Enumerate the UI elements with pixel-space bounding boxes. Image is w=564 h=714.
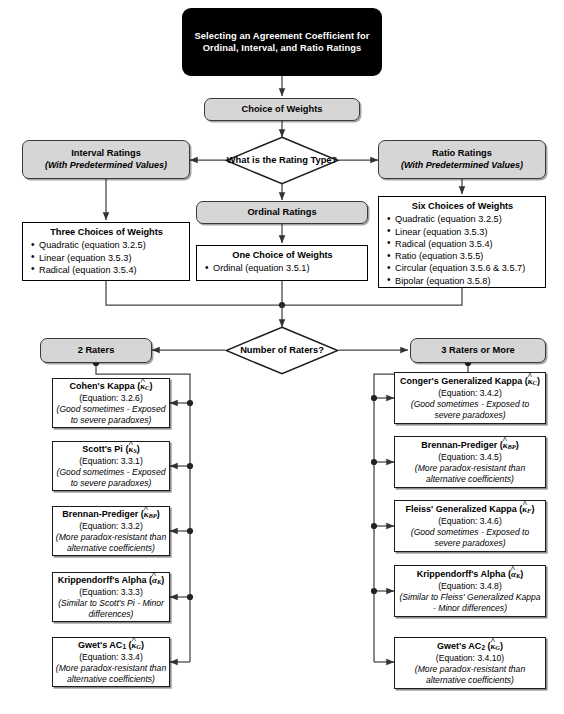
ratio-ratings-label: Ratio Ratings [432,148,492,160]
stage-three-or-more-raters[interactable]: 3 Raters or More [410,338,546,363]
list-item: Ratio (equation 3.5.5) [395,250,548,262]
list-item: Ordinal (equation 3.5.1) [213,262,370,274]
coefficient-symbol: (κC) [137,381,152,391]
coefficient-name-text: Fleiss' Generalized Kappa [406,504,517,514]
coefficient-name: Gwet's AC1 (κG) [78,640,144,653]
coefficient-name: Brennan-Prediger (κBP) [421,440,519,453]
coefficient-box-scotts-pi: Scott's Pi (κS) (Equation: 3.3.1) (Good … [52,441,170,491]
diagram-title-text: Selecting an Agreement Coefficient for O… [188,30,376,55]
coefficient-symbol: (αK) [149,575,164,585]
coefficient-note: (More paradox-resistant than alternative… [397,463,543,484]
coefficient-symbol: (κG) [488,641,503,651]
coefficient-box-congers-generalized-kappa: Conger's Generalized Kappa (κC) (Equatio… [394,372,546,424]
coefficient-box-brennan-prediger-3raters: Brennan-Prediger (κBP) (Equation: 3.4.5)… [394,436,546,488]
list-item: Radical (equation 3.5.4) [39,264,192,276]
flowchart-canvas: Selecting an Agreement Coefficient for O… [0,0,564,714]
coefficient-equation: (Equation: 3.3.3) [79,587,143,598]
coefficient-equation: (Equation: 3.4.6) [438,516,502,527]
coefficient-name: Scott's Pi (κS) [82,444,140,457]
coefficient-name-text: Cohen's Kappa [70,381,135,391]
six-choices-list: Quadratic (equation 3.2.5) Linear (equat… [386,213,548,287]
coefficient-equation: (Equation: 3.4.2) [438,388,502,399]
stage-two-raters[interactable]: 2 Raters [40,338,152,363]
decision-rating-type-label: What is the Rating Type? [225,136,339,185]
three-or-more-raters-label: 3 Raters or More [441,345,514,357]
coefficient-symbol: (κBP) [141,509,160,519]
choice-of-weights-label: Choice of Weights [242,104,323,116]
box-one-choice-of-weights: One Choice of Weights Ordinal (equation … [196,245,368,281]
coefficient-name-text: Scott's Pi [82,444,123,454]
coefficient-equation: (Equation: 3.3.1) [79,456,143,467]
coefficient-box-gwets-ac1: Gwet's AC1 (κG) (Equation: 3.3.4) (More … [52,637,170,687]
two-raters-label: 2 Raters [78,345,115,357]
coefficient-equation: (Equation: 3.4.5) [438,452,502,463]
coefficient-equation: (Equation: 3.3.4) [79,652,143,663]
coefficient-equation: (Equation: 3.2.6) [79,393,143,404]
coefficient-note: (More paradox-resistant than alternative… [55,663,167,684]
box-six-choices-of-weights: Six Choices of Weights Quadratic (equati… [378,196,546,288]
interval-ratings-label: Interval Ratings [71,148,141,160]
stage-ratio-ratings[interactable]: Ratio Ratings (With Predetermined Values… [378,140,546,179]
coefficient-note: (More paradox-resistant than alternative… [397,664,543,685]
one-choice-list: Ordinal (equation 3.5.1) [204,262,370,274]
coefficient-box-gwets-ac2: Gwet's AC2 (κG) (Equation: 3.4.10) (More… [394,637,546,689]
coefficient-note: (Good sometimes - Exposed to severe para… [55,404,167,425]
list-item: Quadratic (equation 3.2.5) [39,239,192,251]
coefficient-equation: (Equation: 3.3.2) [79,521,143,532]
ratio-ratings-sublabel: (With Predetermined Values) [401,160,523,171]
coefficient-box-cohens-kappa: Cohen's Kappa (κC) (Equation: 3.2.6) (Go… [52,378,170,428]
coefficient-equation: (Equation: 3.4.10) [436,653,504,664]
coefficient-box-brennan-prediger-2raters: Brennan-Prediger (κBP) (Equation: 3.3.2)… [52,506,170,556]
coefficient-symbol: (αK) [508,569,523,579]
coefficient-name-subscript: 2 [481,644,485,651]
coefficient-box-fleiss-generalized-kappa: Fleiss' Generalized Kappa (κF) (Equation… [394,500,546,552]
decision-number-of-raters[interactable]: Number of Raters? [225,326,339,375]
list-item: Radical (equation 3.5.4) [395,238,548,250]
coefficient-name-text: Conger's Generalized Kappa [400,376,522,386]
list-item: Quadratic (equation 3.2.5) [395,213,548,225]
coefficient-name-text: Brennan-Prediger [62,509,138,519]
coefficient-symbol: (κG) [129,640,144,650]
coefficient-note: (More paradox-resistant than alternative… [55,532,167,553]
coefficient-symbol: (κF) [519,504,534,514]
coefficient-note: (Good sometimes - Exposed to severe para… [55,467,167,488]
coefficient-note: (Good sometimes - Exposed to severe para… [397,527,543,548]
list-item: Linear (equation 3.5.3) [39,252,192,264]
coefficient-note: (Good sometimes - Exposed to severe para… [397,399,543,420]
decision-rating-type[interactable]: What is the Rating Type? [225,136,339,185]
coefficient-box-krippendorffs-alpha-2raters: Krippendorff's Alpha (αK) (Equation: 3.3… [52,572,170,622]
coefficient-name: Krippendorff's Alpha (αK) [417,569,524,582]
coefficient-name-text: Gwet's AC [437,641,481,651]
coefficient-name-text: Krippendorff's Alpha [58,575,147,585]
coefficient-name: Conger's Generalized Kappa (κC) [400,376,540,389]
coefficient-note: (Similar to Fleiss' Generalized Kappa - … [397,592,543,613]
stage-interval-ratings[interactable]: Interval Ratings (With Predetermined Val… [22,140,190,179]
coefficient-name-subscript: 1 [122,643,126,650]
coefficient-name: Fleiss' Generalized Kappa (κF) [406,504,535,517]
one-choice-header: One Choice of Weights [204,249,361,261]
box-three-choices-of-weights: Three Choices of Weights Quadratic (equa… [22,222,190,281]
coefficient-name-text: Krippendorff's Alpha [417,569,506,579]
list-item: Bipolar (equation 3.5.8) [395,275,548,287]
coefficient-note: (Similar to Scott's Pi - Minor differenc… [55,598,167,619]
interval-ratings-sublabel: (With Predetermined Values) [45,160,167,171]
coefficient-name: Cohen's Kappa (κC) [70,381,153,394]
coefficient-symbol: (κS) [125,444,139,454]
coefficient-name-text: Gwet's AC [78,640,122,650]
coefficient-name-text: Brennan-Prediger [421,440,497,450]
list-item: Linear (equation 3.5.3) [395,226,548,238]
decision-number-of-raters-label: Number of Raters? [225,326,339,375]
stage-ordinal-ratings[interactable]: Ordinal Ratings [196,201,368,224]
coefficient-name: Krippendorff's Alpha (αK) [58,575,165,588]
diagram-title: Selecting an Agreement Coefficient for O… [182,8,382,76]
coefficient-box-krippendorffs-alpha-3raters: Krippendorff's Alpha (αK) (Equation: 3.4… [394,565,546,617]
stage-choice-of-weights[interactable]: Choice of Weights [204,98,360,121]
coefficient-equation: (Equation: 3.4.8) [438,581,502,592]
coefficient-symbol: (κC) [525,376,540,386]
three-choices-list: Quadratic (equation 3.2.5) Linear (equat… [30,239,192,276]
list-item: Circular (equation 3.5.6 & 3.5.7) [395,262,548,274]
coefficient-symbol: (κBP) [500,440,519,450]
coefficient-name: Brennan-Prediger (κBP) [62,509,160,522]
coefficient-name: Gwet's AC2 (κG) [437,641,503,654]
ordinal-ratings-label: Ordinal Ratings [247,207,316,219]
